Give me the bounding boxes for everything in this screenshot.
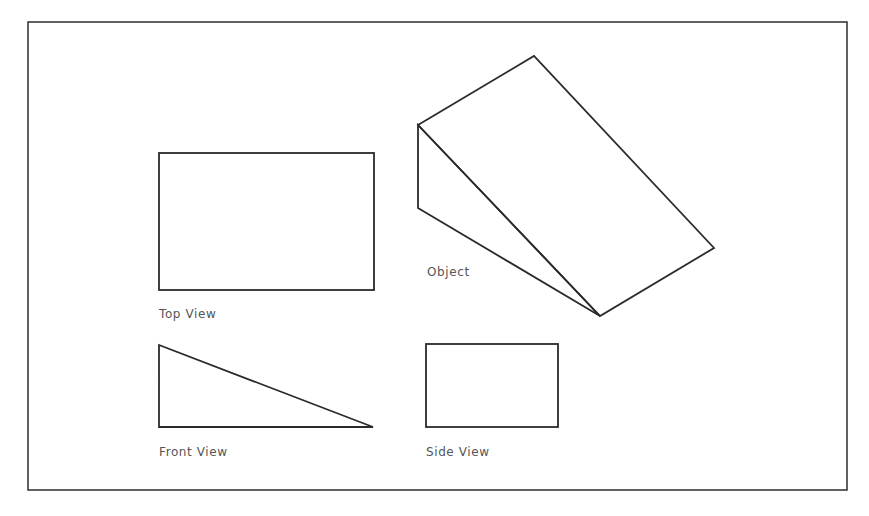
front-view-triangle (159, 345, 373, 427)
front-view: Front View (159, 345, 373, 459)
side-view: Side View (426, 344, 558, 459)
object-label: Object (427, 265, 470, 279)
top-view-label: Top View (158, 307, 216, 321)
front-view-label: Front View (159, 445, 228, 459)
object-end-face (418, 125, 600, 316)
object-isometric: Object (418, 56, 714, 316)
top-view: Top View (158, 153, 374, 321)
side-view-rectangle (426, 344, 558, 427)
orthographic-projection-drawing: Top View Front View Side View Object (0, 0, 869, 516)
top-view-rectangle (159, 153, 374, 290)
side-view-label: Side View (426, 445, 490, 459)
drawing-border (28, 22, 847, 490)
